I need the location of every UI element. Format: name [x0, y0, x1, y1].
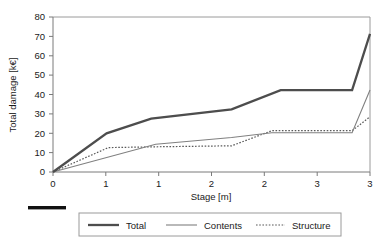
y-axis-tick-labels: 0 10 20 30 40 50 60 70 80 — [34, 11, 45, 177]
chart-figure: 0 10 20 30 40 50 60 70 80 0 1 1 2 2 — [0, 0, 384, 243]
y-tick-label: 0 — [40, 166, 45, 177]
x-axis-title: Stage [m] — [191, 191, 232, 202]
chart-svg: 0 10 20 30 40 50 60 70 80 0 1 1 2 2 — [0, 0, 384, 243]
legend-label-contents: Contents — [204, 220, 242, 231]
x-tick-label: 3 — [367, 178, 372, 189]
legend-label-total: Total — [126, 220, 146, 231]
y-tick-label: 80 — [34, 11, 45, 22]
y-tick-label: 60 — [34, 50, 45, 61]
y-tick-label: 10 — [34, 147, 45, 158]
scale-bar — [28, 206, 66, 209]
x-tick-label: 1 — [103, 178, 108, 189]
y-tick-label: 40 — [34, 89, 45, 100]
y-tick-label: 50 — [34, 69, 45, 80]
y-tick-label: 70 — [34, 31, 45, 42]
x-tick-label: 1 — [156, 178, 161, 189]
chart-legend: Total Contents Structure — [79, 213, 341, 236]
x-tick-label: 2 — [209, 178, 214, 189]
x-tick-label: 2 — [262, 178, 267, 189]
y-axis-title: Total damage [k€] — [7, 58, 18, 133]
legend-label-structure: Structure — [292, 220, 331, 231]
x-tick-label: 0 — [50, 178, 55, 189]
y-tick-label: 20 — [34, 128, 45, 139]
y-tick-label: 30 — [34, 108, 45, 119]
x-tick-label: 3 — [315, 178, 320, 189]
